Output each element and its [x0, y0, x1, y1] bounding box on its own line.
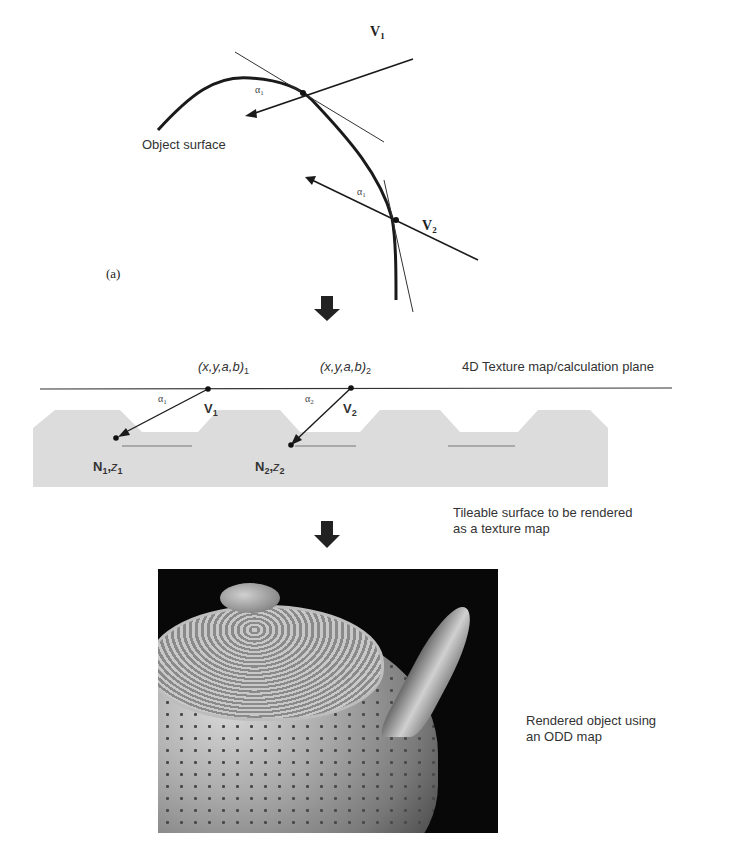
rendered-teapot-image [158, 569, 498, 833]
plane-label: 4D Texture map/calculation plane [462, 359, 654, 374]
plane-label-v2: V2 [343, 401, 357, 418]
normal-depth-label-1: N1,z1 [93, 459, 123, 476]
point-v1 [300, 90, 306, 96]
object-surface-label: Object surface [142, 137, 226, 152]
render-caption-line2: an ODD map [526, 729, 656, 745]
render-caption: Rendered object using an ODD map [526, 713, 656, 745]
down-arrow-2 [314, 521, 340, 548]
coord-label-2: (x,y,a,b)2 [320, 359, 371, 376]
render-caption-line1: Rendered object using [526, 713, 656, 729]
surface-caption: Tileable surface to be rendered as a tex… [453, 505, 632, 537]
down-arrow-1 [314, 296, 340, 321]
teapot-knob [220, 583, 280, 613]
normal-depth-label-2: N2,z2 [255, 459, 285, 476]
plane-point-1 [205, 386, 211, 392]
surface-caption-line1: Tileable surface to be rendered [453, 505, 632, 521]
vector-v1-arrowhead [245, 109, 257, 118]
plane-alpha-2: α2 [305, 393, 314, 406]
plane-point-2 [348, 385, 354, 391]
label-alpha-1-lower: α1 [357, 186, 366, 199]
vector-v1-line [252, 59, 413, 114]
point-v2 [393, 217, 399, 223]
coord-label-1: (x,y,a,b)1 [198, 359, 249, 376]
plane-alpha-1: α1 [158, 393, 167, 406]
surface-point-n2 [288, 442, 294, 448]
tangent-line-1 [235, 52, 384, 142]
tangent-line-2 [384, 180, 413, 312]
surface-point-n1 [113, 435, 119, 441]
label-alpha-1-top: α1 [255, 84, 264, 97]
calculation-plane-line [40, 388, 672, 389]
teapot-lid [158, 605, 384, 721]
panel-label-a: (a) [106, 266, 120, 282]
surface-caption-line2: as a texture map [453, 521, 632, 537]
label-v1: V1 [370, 24, 385, 41]
plane-label-v1: V1 [204, 401, 218, 418]
label-v2: V2 [422, 218, 437, 235]
